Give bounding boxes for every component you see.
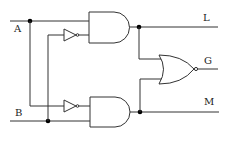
circuit-drawing: [0, 0, 229, 141]
buffer-bottom-icon: [64, 100, 76, 112]
input-label-b: B: [15, 108, 22, 118]
output-label-m: M: [204, 97, 214, 107]
wire-l-to-or: [139, 27, 163, 59]
logic-circuit-diagram: A B L G M: [0, 0, 229, 141]
input-label-a: A: [14, 24, 21, 34]
wire-a-to-buffer: [30, 21, 64, 106]
buffer-top-bubble: [76, 34, 79, 37]
buffer-bottom-bubble: [76, 105, 79, 108]
or-gate-icon: [159, 55, 194, 84]
wire-b-to-buffer: [48, 35, 64, 121]
and-gate-top-icon: [89, 12, 130, 43]
output-label-l: L: [203, 13, 210, 23]
or-gate-bubble: [194, 67, 197, 70]
buffer-top-icon: [64, 29, 76, 41]
and-gate-bottom-icon: [90, 97, 130, 127]
output-label-g: G: [204, 56, 212, 66]
